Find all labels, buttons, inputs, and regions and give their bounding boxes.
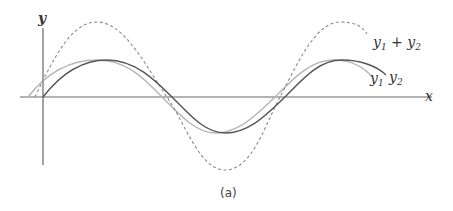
label-y1: y1 [369,70,384,88]
curve-sum [35,22,367,170]
label-y2: y2 [388,69,403,87]
y-axis-label: y [37,10,47,26]
label-sum: y1 + y2 [372,34,421,52]
x-axis-label: x [425,88,433,104]
wave-superposition-figure: y x y1 + y2 y1 y2 (a) [0,0,453,211]
figure-caption: (a) [220,186,237,200]
